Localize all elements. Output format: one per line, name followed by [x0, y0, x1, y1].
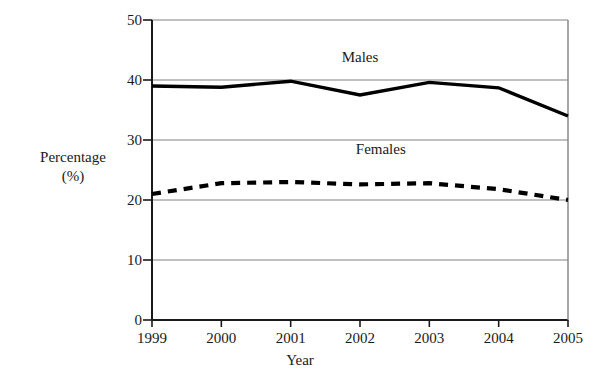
y-tick-label: 20: [100, 192, 142, 209]
x-axis-label: Year: [286, 352, 314, 369]
y-tick-label: 0: [100, 312, 142, 329]
series-line-females: [152, 182, 568, 200]
y-tick-label: 40: [100, 72, 142, 89]
chart-figure: Percentage (%) Year 01020304050 19992000…: [0, 0, 600, 389]
x-tick-label: 1999: [137, 330, 167, 347]
y-tick-label: 50: [100, 12, 142, 29]
y-axis-label-line2: (%): [8, 167, 138, 186]
x-tick-label: 2001: [276, 330, 306, 347]
x-tick-label: 2002: [345, 330, 375, 347]
tickmarks-group: [143, 20, 568, 327]
y-axis-label: Percentage (%): [8, 148, 138, 186]
series-line-males: [152, 81, 568, 116]
y-tick-label: 30: [100, 132, 142, 149]
x-tick-label: 2003: [414, 330, 444, 347]
x-tick-label: 2004: [484, 330, 514, 347]
x-tick-label: 2005: [553, 330, 583, 347]
y-tick-label: 10: [100, 252, 142, 269]
series-annotation-females: Females: [356, 141, 406, 158]
series-annotation-males: Males: [342, 49, 379, 66]
x-tick-label: 2000: [206, 330, 236, 347]
y-axis-label-line1: Percentage: [8, 148, 138, 167]
